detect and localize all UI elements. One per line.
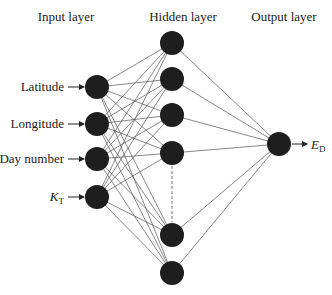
hidden-node	[160, 103, 184, 127]
input-arrows	[68, 87, 84, 197]
input-node	[85, 147, 109, 171]
connection-edges	[97, 43, 279, 273]
hidden-node	[160, 223, 184, 247]
hidden-node	[160, 67, 184, 91]
input-label-day-number: Day number	[0, 151, 65, 166]
input-node	[85, 112, 109, 136]
input-label-kt: KT	[49, 189, 65, 206]
neural-network-diagram: Input layer Hidden layer Output layer La…	[0, 0, 332, 295]
input-label-latitude: Latitude	[21, 79, 65, 94]
input-label-longitude: Longitude	[11, 116, 65, 131]
hidden-node	[160, 141, 184, 165]
hidden-layer-title: Hidden layer	[149, 9, 217, 24]
input-node	[85, 185, 109, 209]
hidden-node	[160, 31, 184, 55]
input-node	[85, 75, 109, 99]
input-layer-title: Input layer	[38, 9, 95, 24]
network-svg: Input layer Hidden layer Output layer La…	[0, 0, 332, 295]
hidden-node	[160, 261, 184, 285]
output-node	[267, 132, 291, 156]
output-label-ed: ED	[310, 137, 326, 154]
output-layer-title: Output layer	[251, 9, 317, 24]
